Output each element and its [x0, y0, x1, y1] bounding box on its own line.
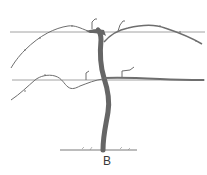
grapevine-trellis-diagram: B	[0, 0, 207, 175]
upper-spur-left	[92, 19, 97, 29]
lower-spur-left	[86, 71, 89, 80]
figure-label: B	[100, 154, 114, 168]
lower-left-cane	[11, 75, 103, 100]
vine-trunk	[98, 30, 109, 150]
lower-spur-right	[122, 67, 134, 78]
